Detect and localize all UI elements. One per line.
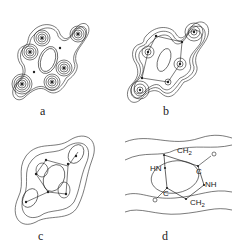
panel-label-a: a: [40, 104, 45, 119]
atom-nh-right: NH: [205, 181, 217, 189]
panel-label-c: c: [38, 229, 43, 244]
figure-canvas: [0, 0, 241, 249]
panel-label-b: b: [163, 104, 169, 119]
atom-ch2-bottom: CH2: [190, 199, 205, 208]
panel-b-contours: [127, 22, 208, 102]
atom-ch2-top: CH2: [177, 147, 192, 156]
atom-c-left: C: [163, 190, 169, 198]
atom-c-right: C: [196, 168, 202, 176]
panel-c-contours: [15, 136, 94, 224]
atom-hn-left: HN: [150, 165, 162, 173]
panel-label-d: d: [162, 229, 168, 244]
panel-a-contours: [12, 23, 89, 99]
